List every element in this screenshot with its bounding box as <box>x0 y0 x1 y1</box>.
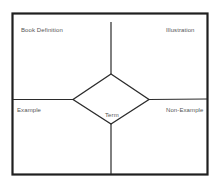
right-divider <box>149 99 207 100</box>
quadrant-label-non-example: Non-Example <box>166 107 203 113</box>
quadrant-label-book-definition: Book Definition <box>21 27 63 33</box>
quadrant-label-illustration: Illustration <box>166 27 195 33</box>
frayer-model-diagram: Book Definition Illustration Example Non… <box>0 0 221 184</box>
quadrant-label-example: Example <box>17 107 41 113</box>
center-term-label: Term <box>105 112 119 118</box>
